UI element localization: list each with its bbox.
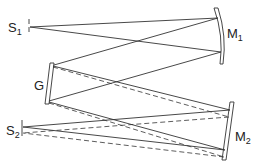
ray-m2-s2-top-solid <box>23 110 230 127</box>
ray-m2-s2-bottom-dashed <box>23 133 224 157</box>
ray-g-m2-top-solid <box>53 66 230 110</box>
grating-g <box>45 63 54 104</box>
label-m2: M2 <box>235 130 251 146</box>
label-g: G <box>34 79 44 92</box>
label-s2: S2 <box>6 124 20 140</box>
ray-g-m2-bottom-solid <box>49 102 225 150</box>
collimating-mirror-m1 <box>214 8 224 64</box>
label-m1: M1 <box>227 27 243 43</box>
ray-g-m2-bottom-dashed <box>49 103 224 157</box>
ray-s1-m1-bottom <box>30 27 221 52</box>
label-s1: S1 <box>8 21 22 37</box>
